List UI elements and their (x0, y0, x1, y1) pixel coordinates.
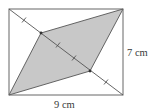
vertex-point-upper (40, 32, 43, 35)
width-label: 9 cm (54, 99, 75, 110)
height-label: 7 cm (127, 47, 148, 58)
geometry-diagram: 7 cm 9 cm (0, 0, 153, 110)
vertex-point-lower (89, 70, 92, 73)
